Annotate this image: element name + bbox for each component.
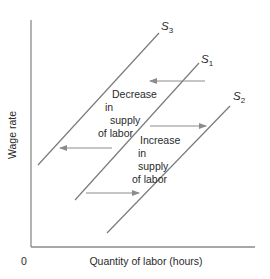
- label-s1: S1: [201, 53, 213, 68]
- label-s2: S2: [233, 90, 245, 105]
- label-s1-sub: 1: [209, 59, 213, 68]
- label-s3-sub: 3: [169, 26, 173, 35]
- annotation-increase: Increase in supply of labor: [140, 134, 180, 186]
- y-axis-title: Wage rate: [6, 111, 19, 159]
- increase-line-3: supply: [138, 160, 180, 173]
- label-s1-base: S: [201, 53, 209, 65]
- label-s2-sub: 2: [241, 96, 245, 105]
- increase-line-2: in: [138, 147, 180, 160]
- label-s3-base: S: [161, 20, 169, 32]
- label-s2-base: S: [233, 90, 241, 102]
- decrease-line-2: in: [105, 101, 157, 114]
- increase-line-4: of labor: [132, 173, 180, 186]
- label-s3: S3: [161, 20, 173, 35]
- annotation-decrease: Decrease in supply of labor: [110, 88, 157, 140]
- increase-line-1: Increase: [140, 134, 180, 147]
- origin-label: 0: [21, 255, 27, 268]
- decrease-line-1: Decrease: [110, 88, 157, 101]
- x-axis-title: Quantity of labor (hours): [0, 255, 270, 268]
- decrease-line-3: supply: [110, 114, 157, 127]
